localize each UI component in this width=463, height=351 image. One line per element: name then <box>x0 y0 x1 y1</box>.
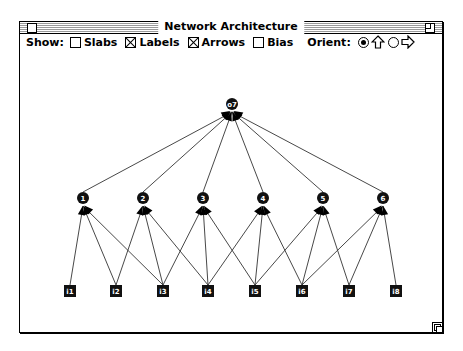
bias-checkbox[interactable] <box>253 37 264 48</box>
show-slabs-option[interactable]: Slabs <box>68 36 118 49</box>
zoom-box[interactable] <box>425 23 435 33</box>
connection-i5-4 <box>255 206 263 285</box>
connection-i4-4 <box>208 206 263 285</box>
node-label-4: 4 <box>261 195 266 203</box>
show-bias-option[interactable]: Bias <box>251 36 293 49</box>
show-label: Show: <box>26 36 64 49</box>
toolbar: Show: Slabs Labels Arrows Bias Orient: <box>26 34 442 50</box>
node-label-o7: o7 <box>227 101 237 109</box>
node-label-i8: i8 <box>392 288 399 296</box>
arrows-label: Arrows <box>202 36 246 49</box>
connection-i1-1 <box>70 206 83 285</box>
show-arrows-option[interactable]: Arrows <box>186 36 246 49</box>
arrowhead-i6-4 <box>264 206 271 216</box>
labels-label: Labels <box>139 36 179 49</box>
bias-label: Bias <box>267 36 293 49</box>
node-label-2: 2 <box>141 195 146 203</box>
connection-i6-4 <box>263 206 302 285</box>
connection-i2-2 <box>116 206 143 285</box>
connection-i8-6 <box>383 206 396 285</box>
node-label-i6: i6 <box>298 288 305 296</box>
connection-5-o7 <box>232 112 323 192</box>
node-label-i1: i1 <box>66 288 73 296</box>
orient-up-radio[interactable] <box>358 37 369 48</box>
arrow-right-icon[interactable] <box>401 35 415 49</box>
connection-3-o7 <box>203 112 232 192</box>
network-canvas: 123456o7i1i2i3i4i5i6i7i8 <box>20 51 442 332</box>
arrowhead-i7-5 <box>323 206 330 216</box>
orient-label: Orient: <box>307 36 351 49</box>
title-bar[interactable]: Network Architecture <box>20 22 442 34</box>
node-label-3: 3 <box>201 195 206 203</box>
connection-1-o7 <box>83 112 232 192</box>
orient-right-radio[interactable] <box>388 37 399 48</box>
node-label-i5: i5 <box>251 288 258 296</box>
connection-i7-5 <box>323 206 349 285</box>
network-diagram: 123456o7i1i2i3i4i5i6i7i8 <box>20 51 442 333</box>
node-label-1: 1 <box>81 195 86 203</box>
node-label-i4: i4 <box>204 288 211 296</box>
connection-i4-3 <box>203 206 208 285</box>
resize-handle[interactable] <box>432 322 443 333</box>
node-label-i3: i3 <box>159 288 166 296</box>
connection-4-o7 <box>232 112 263 192</box>
node-label-6: 6 <box>381 195 386 203</box>
node-label-5: 5 <box>321 195 326 203</box>
arrowhead-i2-2 <box>136 206 143 216</box>
connection-i6-6 <box>302 206 383 285</box>
network-architecture-window: Network Architecture Show: Slabs Labels … <box>19 21 443 333</box>
labels-checkbox[interactable] <box>125 37 136 48</box>
slabs-checkbox[interactable] <box>70 37 81 48</box>
show-labels-option[interactable]: Labels <box>123 36 179 49</box>
connection-i3-3 <box>163 206 203 285</box>
arrow-up-icon[interactable] <box>371 35 385 49</box>
connection-i2-1 <box>83 206 116 285</box>
arrows-checkbox[interactable] <box>188 37 199 48</box>
node-label-i7: i7 <box>345 288 352 296</box>
close-box[interactable] <box>27 23 37 33</box>
node-label-i2: i2 <box>112 288 119 296</box>
connection-i7-6 <box>349 206 383 285</box>
window-title: Network Architecture <box>158 20 304 34</box>
connection-i3-1 <box>83 206 163 285</box>
connection-2-o7 <box>143 112 232 192</box>
connection-i5-3 <box>203 206 255 285</box>
connection-6-o7 <box>232 112 383 192</box>
slabs-label: Slabs <box>84 36 118 49</box>
